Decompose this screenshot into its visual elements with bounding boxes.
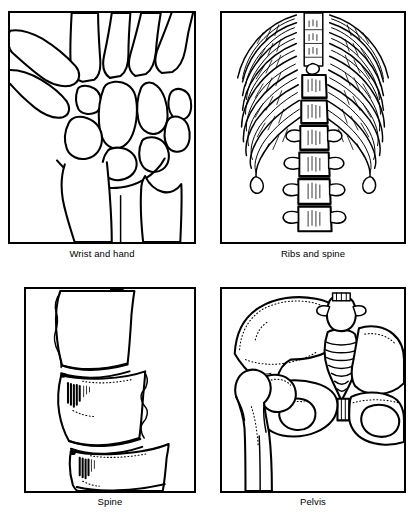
illustration-spine-closeup <box>26 289 194 491</box>
panel-wrist-and-hand: Wrist and hand <box>8 11 196 244</box>
panel-ribs-and-spine: Ribs and spine <box>220 11 406 244</box>
panel-frame-spine <box>24 287 196 493</box>
panel-frame-wrist <box>8 11 196 244</box>
panel-caption-spine: Spine <box>24 496 196 508</box>
panel-caption-ribs: Ribs and spine <box>220 248 406 260</box>
illustration-ribs-and-spine <box>222 13 404 242</box>
illustration-pelvis <box>222 289 404 491</box>
panel-pelvis: Pelvis <box>220 287 406 493</box>
panel-spine: Spine <box>24 287 196 493</box>
panel-frame-pelvis <box>220 287 406 493</box>
illustration-wrist-and-hand <box>10 13 194 242</box>
panel-frame-ribs <box>220 11 406 244</box>
panel-caption-wrist: Wrist and hand <box>8 248 196 260</box>
figure-sheet: Wrist and hand <box>0 0 419 528</box>
panel-caption-pelvis: Pelvis <box>220 496 406 508</box>
